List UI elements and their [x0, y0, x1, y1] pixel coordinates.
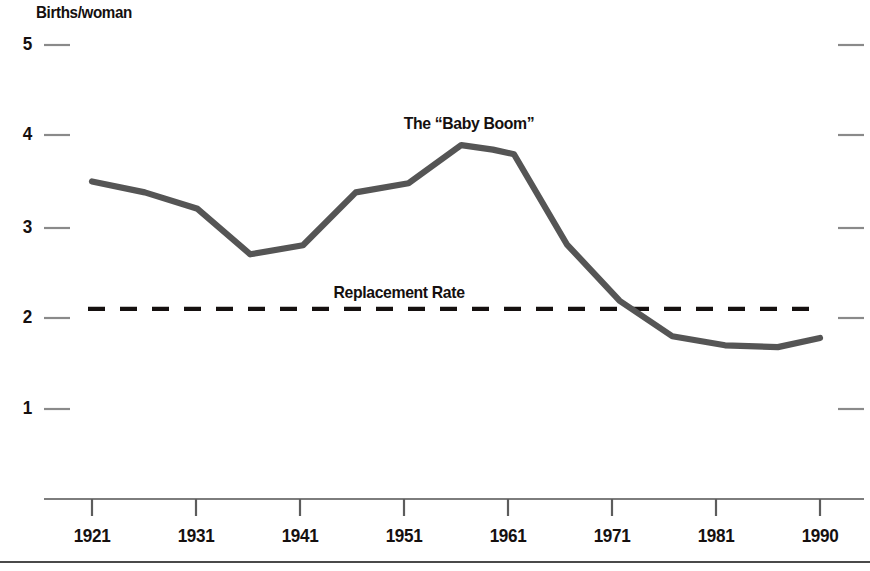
y-axis-right-ticks — [838, 45, 864, 409]
x-tick-label-1941: 1941 — [264, 525, 336, 547]
x-axis-ticks — [92, 499, 820, 516]
y-axis-left-ticks — [44, 45, 70, 409]
replacement-rate-annotation: Replacement Rate — [287, 283, 510, 303]
y-tick-label-1: 1 — [9, 397, 32, 419]
x-tick-label-1981: 1981 — [680, 525, 752, 547]
x-tick-label-1961: 1961 — [472, 525, 544, 547]
x-tick-label-1921: 1921 — [56, 525, 128, 547]
y-tick-label-5: 5 — [9, 33, 32, 55]
fertility-rate-line — [92, 145, 820, 347]
x-tick-label-1971: 1971 — [576, 525, 648, 547]
x-tick-label-1951: 1951 — [368, 525, 440, 547]
bottom-divider-rule — [0, 561, 870, 563]
y-tick-label-3: 3 — [9, 216, 32, 238]
y-tick-label-4: 4 — [9, 123, 32, 145]
baby-boom-annotation: The “Baby Boom” — [357, 114, 580, 134]
y-axis-title: Births/woman — [36, 3, 132, 22]
x-tick-label-1931: 1931 — [160, 525, 232, 547]
fertility-rate-chart-figure: Births/woman 5 4 3 2 1 1921 1931 1941 19… — [0, 0, 870, 571]
x-tick-label-1990: 1990 — [784, 525, 856, 547]
y-tick-label-2: 2 — [9, 306, 32, 328]
